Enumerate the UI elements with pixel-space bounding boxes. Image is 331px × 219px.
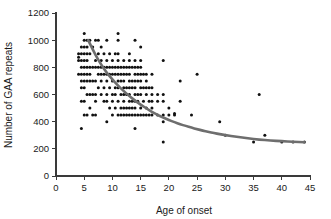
data-point	[252, 141, 255, 144]
data-point	[145, 113, 148, 116]
data-point	[128, 100, 131, 103]
data-point	[139, 59, 142, 62]
data-point	[131, 107, 134, 110]
fitted-curve	[88, 40, 304, 142]
data-point	[94, 100, 97, 103]
data-point	[122, 107, 125, 110]
data-point	[134, 127, 137, 130]
data-point	[263, 134, 266, 137]
data-point	[134, 86, 137, 89]
data-point	[83, 86, 86, 89]
data-point	[86, 79, 89, 82]
data-point	[80, 79, 83, 82]
x-tick-label: 45	[305, 182, 316, 193]
data-point	[173, 112, 176, 115]
data-point	[105, 100, 108, 103]
data-point	[111, 59, 114, 62]
data-point	[139, 79, 142, 82]
data-point	[139, 86, 142, 89]
data-point	[108, 86, 111, 89]
y-tick-label: 1200	[28, 7, 49, 18]
data-point	[136, 93, 139, 96]
data-point	[134, 107, 137, 110]
x-tick-label: 5	[82, 182, 87, 193]
y-tick-label: 800	[33, 62, 49, 73]
data-point	[80, 52, 83, 55]
data-point	[114, 86, 117, 89]
data-point	[122, 59, 125, 62]
data-point	[94, 59, 97, 62]
data-point	[83, 45, 86, 48]
data-point	[111, 66, 114, 69]
y-tick-label: 1000	[28, 35, 49, 46]
data-point	[150, 107, 153, 110]
data-point	[83, 66, 86, 69]
data-point	[134, 79, 137, 82]
data-point	[139, 93, 142, 96]
data-point	[150, 86, 153, 89]
data-point	[111, 73, 114, 76]
data-point	[83, 100, 86, 103]
data-point	[179, 100, 182, 103]
data-point	[125, 113, 128, 116]
data-point	[100, 93, 103, 96]
data-point	[86, 59, 89, 62]
data-point	[83, 59, 86, 62]
data-point	[136, 73, 139, 76]
data-point	[122, 66, 125, 69]
data-point	[117, 100, 120, 103]
data-point	[91, 113, 94, 116]
data-point	[91, 79, 94, 82]
data-point	[117, 73, 120, 76]
data-point	[88, 73, 91, 76]
data-point	[119, 93, 122, 96]
data-point	[134, 66, 137, 69]
data-point	[134, 73, 137, 76]
data-point	[142, 100, 145, 103]
data-point	[134, 59, 137, 62]
data-point	[97, 39, 100, 42]
data-point	[119, 66, 122, 69]
data-point	[77, 59, 80, 62]
y-axis-ticks: 020040060080010001200	[28, 7, 56, 181]
data-point	[105, 39, 108, 42]
data-point	[97, 73, 100, 76]
scatter-chart: 020040060080010001200 051015202530354045…	[0, 0, 331, 219]
data-point	[102, 86, 105, 89]
x-tick-label: 25	[192, 182, 203, 193]
data-point	[86, 66, 89, 69]
data-point	[105, 120, 108, 123]
data-point	[86, 93, 89, 96]
data-point	[80, 66, 83, 69]
data-point	[94, 66, 97, 69]
data-point	[114, 107, 117, 110]
data-point	[105, 79, 108, 82]
y-tick-label: 200	[33, 143, 49, 154]
data-point	[100, 45, 103, 48]
data-point	[136, 79, 139, 82]
data-point	[148, 113, 151, 116]
data-point	[131, 113, 134, 116]
data-point	[128, 86, 131, 89]
data-point	[128, 107, 131, 110]
x-tick-label: 35	[248, 182, 259, 193]
data-point	[119, 113, 122, 116]
data-point	[86, 52, 89, 55]
data-point	[134, 39, 137, 42]
chart-canvas: 020040060080010001200 051015202530354045…	[0, 0, 331, 219]
data-point	[125, 66, 128, 69]
data-point	[80, 100, 83, 103]
data-point	[111, 100, 114, 103]
data-point	[156, 93, 159, 96]
data-point	[86, 45, 89, 48]
data-point	[139, 73, 142, 76]
y-tick-label: 600	[33, 89, 49, 100]
data-point	[77, 52, 80, 55]
data-point	[162, 141, 165, 144]
data-point	[88, 79, 91, 82]
data-point	[131, 79, 134, 82]
data-point	[258, 93, 261, 96]
data-point	[105, 66, 108, 69]
data-point	[80, 73, 83, 76]
data-point	[122, 79, 125, 82]
